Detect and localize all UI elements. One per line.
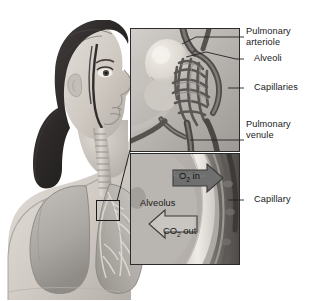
label-capillary: Capillary: [254, 194, 291, 205]
label-alveoli: Alveoli: [254, 53, 282, 64]
lung-detail-box: [96, 200, 120, 221]
o2-in-label: O2 in: [179, 170, 200, 183]
figure-canvas: O2 in CO2 out Alveolus Pulmonary arterio…: [0, 0, 314, 301]
label-pulmonary-venule: Pulmonary venule: [246, 119, 291, 140]
alveolar-sac-drawing: [131, 29, 239, 151]
label-pulmonary-arteriole: Pulmonary arteriole: [246, 26, 291, 47]
co2-out-label: CO2 out: [163, 225, 196, 238]
panel-alveolar-sac: [130, 28, 240, 152]
label-capillaries: Capillaries: [254, 82, 298, 93]
label-alveolus: Alveolus: [140, 198, 176, 209]
